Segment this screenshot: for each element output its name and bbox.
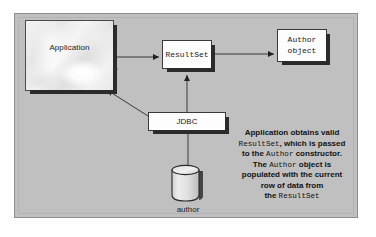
caption-l5: populated with the current — [242, 170, 342, 179]
node-resultset-label: ResultSet — [165, 50, 208, 59]
author-object-shadow-bottom — [282, 61, 330, 65]
caption-text: Application obtains valid ResultSet, whi… — [222, 128, 362, 202]
node-author-object-label-line2: object — [288, 46, 317, 56]
resultset-shadow-bottom — [167, 68, 215, 72]
caption-l3-b: constructor. — [293, 149, 341, 158]
caption-l4-a: The — [253, 160, 269, 169]
caption-l4-b: object is — [297, 160, 332, 169]
application-shadow-bottom — [30, 90, 117, 94]
node-application-label: Application — [49, 43, 89, 52]
caption-line-4: The Author object is — [222, 160, 362, 171]
caption-line-1: Application obtains valid — [222, 128, 362, 139]
diagram-figure: Application ResultSet Author object JDBC — [0, 0, 376, 237]
caption-l7-a: the — [264, 191, 278, 200]
node-resultset[interactable]: ResultSet — [162, 40, 212, 69]
caption-line-5: populated with the current — [222, 170, 362, 181]
node-application[interactable]: Application — [25, 20, 114, 91]
caption-line-2: ResultSet, which is passed — [222, 139, 362, 150]
caption-line-3: to the Author constructor. — [222, 149, 362, 160]
caption-line-6: row of data from — [222, 181, 362, 192]
node-jdbc[interactable]: JDBC — [148, 112, 226, 131]
application-shadow-right — [113, 25, 117, 94]
caption-line-7: the ResultSet — [222, 191, 362, 202]
node-author-object-label-line1: Author — [288, 35, 317, 45]
node-author-object[interactable]: Author object — [277, 29, 327, 62]
caption-l3-a: to the — [242, 149, 266, 158]
jdbc-shadow-bottom — [153, 130, 229, 134]
node-jdbc-label: JDBC — [177, 117, 198, 126]
database-cylinder-icon[interactable] — [170, 163, 206, 205]
caption-l2-b: , which is passed — [280, 139, 346, 148]
caption-l4-code: Author — [269, 161, 296, 169]
caption-l2-code: ResultSet — [239, 140, 280, 148]
database-label: author — [155, 205, 221, 214]
caption-l6: row of data from — [261, 181, 324, 190]
caption-l3-code: Author — [266, 150, 293, 158]
caption-l7-code: ResultSet — [279, 192, 320, 200]
caption-l1-a: Application obtains valid — [245, 128, 340, 137]
